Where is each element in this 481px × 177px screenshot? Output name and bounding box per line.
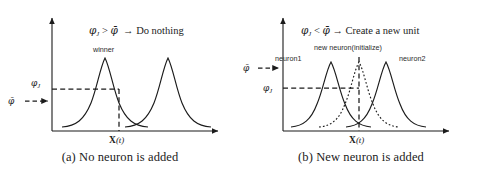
label-x-of-t: X(t) (109, 135, 124, 145)
label-new-neuron: new neuron(initialize) (314, 43, 382, 52)
label-neuron2: neuron2 (399, 54, 425, 63)
label-phi-bar: φ̄ (243, 63, 250, 73)
caption-panel-b: (b) New neuron is added (241, 150, 481, 165)
panel-b-plot: φ̄ φJ φJ < φ̄ → Create a new unit new ne… (241, 0, 481, 150)
figure-root: φJ φ̄ φJ > φ̄ → Do nothing winner X(t) (… (0, 0, 481, 177)
label-x-of-t: X(t) (349, 135, 364, 145)
label-phi-j: φJ (263, 83, 273, 94)
label-neuron1: neuron1 (275, 54, 301, 63)
caption-panel-a: (a) No neuron is added (0, 150, 240, 165)
curve-neuron2 (346, 62, 426, 127)
label-phi-j: φJ (31, 78, 41, 89)
label-phi-bar: φ̄ (8, 96, 15, 106)
condition-expression: φJ < φ̄ → Create a new unit (301, 24, 419, 37)
label-winner: winner (92, 45, 115, 54)
panel-a-plot: φJ φ̄ φJ > φ̄ → Do nothing winner X(t) (0, 0, 240, 150)
panel-b-new-neuron-added: φ̄ φJ φJ < φ̄ → Create a new unit new ne… (241, 0, 481, 177)
curve-winner-neuron (62, 58, 148, 127)
curve-second-neuron (125, 58, 211, 127)
condition-expression: φJ > φ̄ → Do nothing (89, 24, 184, 37)
panel-a-no-neuron-added: φJ φ̄ φJ > φ̄ → Do nothing winner X(t) (… (0, 0, 240, 177)
